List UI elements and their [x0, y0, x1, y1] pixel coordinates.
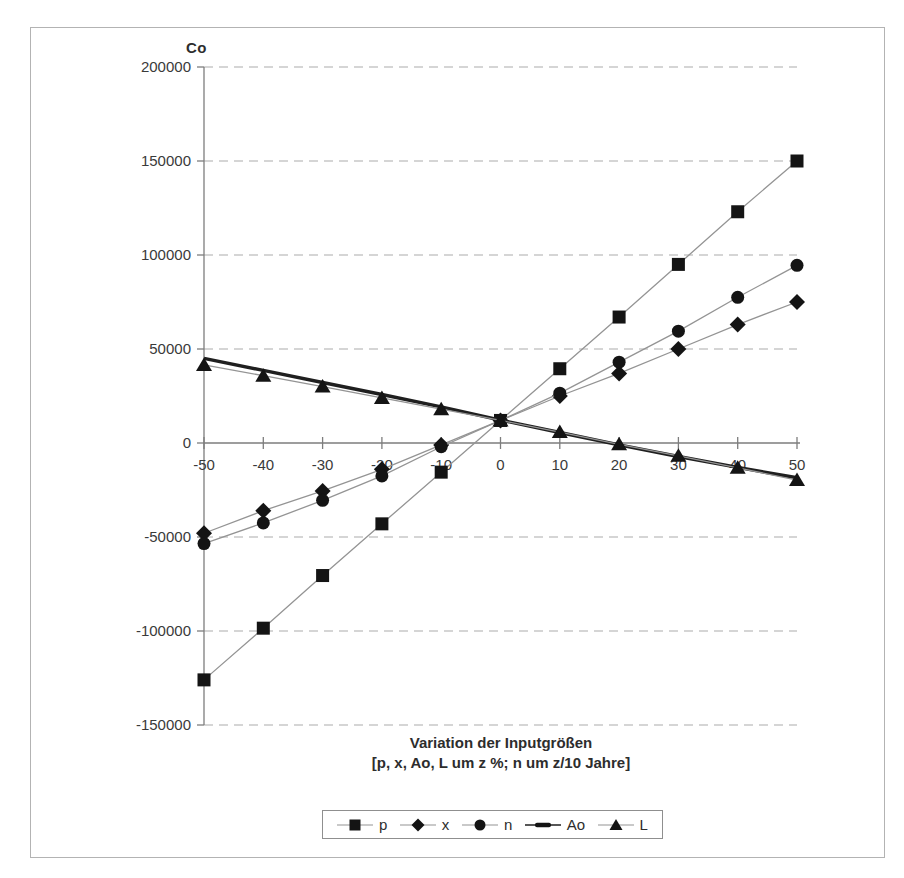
- x-tick-label: -40: [252, 456, 274, 473]
- y-axis-title: Co: [186, 39, 246, 56]
- legend-key-thick-dash-icon: [525, 817, 561, 833]
- legend-item-x: x: [400, 816, 450, 833]
- y-tick-label: -100000: [136, 622, 191, 639]
- axes: [197, 67, 800, 725]
- marker-circle: [435, 440, 448, 453]
- x-tick-label: -30: [312, 456, 334, 473]
- legend-label-x: x: [442, 816, 450, 833]
- y-tick-label: -150000: [136, 716, 191, 733]
- x-tick-label: 50: [789, 456, 806, 473]
- marker-diamond: [789, 294, 805, 310]
- legend-label-p: p: [379, 816, 387, 833]
- x-tick-label: 20: [611, 456, 628, 473]
- marker-square: [375, 517, 388, 530]
- legend-marker-circle: [474, 819, 485, 830]
- legend-key-triangle-icon: [598, 817, 634, 833]
- legend-key-diamond-icon: [400, 817, 436, 833]
- x-tick-label: 10: [551, 456, 568, 473]
- marker-circle: [613, 356, 626, 369]
- legend-item-n: n: [462, 816, 512, 833]
- legend-label-n: n: [504, 816, 512, 833]
- marker-diamond: [730, 317, 746, 333]
- legend-item-L: L: [598, 816, 648, 833]
- x-tick-label: -50: [193, 456, 215, 473]
- x-axis-title-line2: [p, x, Ao, L um z %; n um z/10 Jahre]: [204, 753, 798, 773]
- marker-square: [672, 258, 685, 271]
- marker-circle: [198, 537, 211, 550]
- marker-diamond: [255, 503, 271, 519]
- legend-marker-thick-dash: [535, 822, 551, 826]
- legend-key-square-icon: [337, 817, 373, 833]
- marker-circle: [731, 291, 744, 304]
- x-tick-label: 0: [496, 456, 504, 473]
- legend-label-Ao: Ao: [567, 816, 585, 833]
- legend-label-L: L: [640, 816, 648, 833]
- y-tick-label: 200000: [141, 58, 191, 75]
- marker-diamond: [670, 341, 686, 357]
- legend-key-circle-icon: [462, 817, 498, 833]
- marker-square: [257, 622, 270, 635]
- marker-square: [553, 362, 566, 375]
- marker-circle: [316, 494, 329, 507]
- legend-marker-square: [350, 819, 361, 830]
- marker-circle: [553, 387, 566, 400]
- marker-square: [791, 155, 804, 168]
- tick-labels: 200000150000100000500000-50000-100000-15…: [136, 58, 805, 733]
- y-tick-label: -50000: [144, 528, 191, 545]
- x-axis-title: Variation der Inputgrößen [p, x, Ao, L u…: [204, 733, 798, 773]
- legend-item-p: p: [337, 816, 387, 833]
- y-tick-label: 0: [183, 434, 191, 451]
- chart-legend: pxnAoL: [322, 810, 663, 839]
- marker-circle: [672, 325, 685, 338]
- marker-square: [198, 673, 211, 686]
- series-n: [198, 259, 804, 550]
- marker-square: [613, 311, 626, 324]
- gridlines: [204, 67, 797, 725]
- series-line-n: [204, 265, 797, 543]
- y-tick-label: 50000: [149, 340, 191, 357]
- y-tick-label: 100000: [141, 246, 191, 263]
- marker-circle: [257, 516, 270, 529]
- marker-square: [435, 466, 448, 479]
- legend-marker-diamond: [411, 818, 424, 831]
- x-axis-title-line1: Variation der Inputgrößen: [204, 733, 798, 753]
- marker-circle: [791, 259, 804, 272]
- legend-item-Ao: Ao: [525, 816, 585, 833]
- marker-square: [316, 569, 329, 582]
- marker-circle: [375, 469, 388, 482]
- marker-square: [731, 205, 744, 218]
- figure-page: 200000150000100000500000-50000-100000-15…: [0, 0, 904, 878]
- y-tick-label: 150000: [141, 152, 191, 169]
